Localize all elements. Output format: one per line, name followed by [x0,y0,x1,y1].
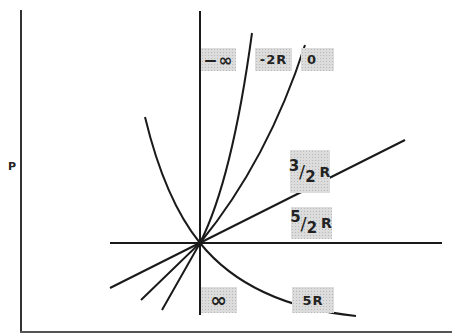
fraction-three-halves-r: 3 / 2 R [289,161,332,182]
y-axis-label: P [8,160,16,173]
label-neg-infinity: −∞ [201,48,236,71]
label-zero: 0 [301,48,334,71]
label-five-r: 5R [292,287,334,313]
label-three-halves-r: 3 / 2 R [290,150,330,193]
label-neg-2r: -2R [255,48,292,71]
origin-point [198,241,203,246]
curve-zero [162,45,305,310]
process-curves-diagram: P −∞ -2R 0 3 / 2 R 5 / 2 R ∞ 5R [0,0,453,335]
fraction-five-halves-r: 5 / 2 R [290,213,333,234]
label-infinity: ∞ [201,287,237,313]
label-five-halves-r: 5 / 2 R [291,207,332,239]
curve-neg-2r [141,33,252,300]
curve-three-halves-r [110,140,405,288]
